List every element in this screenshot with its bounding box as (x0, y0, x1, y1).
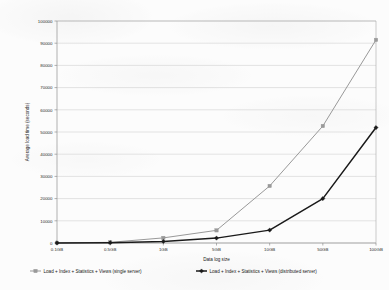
data-point-0-100GB (374, 38, 377, 41)
legend-label-0: Load + Index + Statistics + Views (singl… (44, 269, 143, 274)
y-tick-label-10000: 10000 (40, 219, 53, 224)
legend-marker-distributed-server (199, 269, 203, 273)
data-point-0-50GB (321, 124, 324, 127)
chart-page: 0100002000030000400005000060000700008000… (0, 0, 389, 290)
y-tick-label-70000: 70000 (40, 85, 53, 90)
y-tick-label-90000: 90000 (40, 41, 53, 46)
y-tick-label-20000: 20000 (40, 196, 53, 201)
y-tick-label-100000: 100000 (38, 19, 53, 24)
x-tick-label-100GB: 100GB (369, 247, 383, 252)
y-tick-label-0: 0 (50, 241, 53, 246)
y-tick-label-50000: 50000 (40, 130, 53, 135)
x-tick-label-50GB: 50GB (317, 247, 328, 252)
data-point-1-5GB (214, 236, 218, 240)
x-tick-label-0.5GB: 0.5GB (104, 247, 117, 252)
data-point-0-10GB (268, 184, 271, 187)
y-tick-label-80000: 80000 (40, 63, 53, 68)
data-point-0-5GB (215, 229, 218, 232)
legend-marker-single-server (34, 269, 37, 272)
x-axis-title: Data log size (203, 257, 230, 262)
y-tick-label-60000: 60000 (40, 108, 53, 113)
y-axis-title: Average load time (seconds) (25, 102, 30, 161)
x-tick-label-5GB: 5GB (212, 247, 221, 252)
x-tick-label-1GB: 1GB (159, 247, 168, 252)
series-line-1 (57, 128, 376, 243)
series-line-0 (57, 40, 376, 243)
x-tick-label-0.1GB: 0.1GB (51, 247, 64, 252)
y-tick-label-30000: 30000 (40, 174, 53, 179)
legend-label-1: Load + Index + Statistics + Views (distr… (210, 269, 318, 274)
line-chart: 0100002000030000400005000060000700008000… (0, 0, 389, 290)
y-tick-label-40000: 40000 (40, 152, 53, 157)
x-tick-label-10GB: 10GB (264, 247, 275, 252)
